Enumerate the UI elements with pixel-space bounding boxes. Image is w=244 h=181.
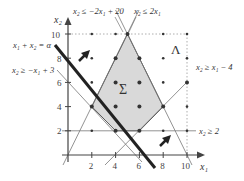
y-axis-arrow-icon (65, 17, 72, 25)
y-tick-label: 10 (51, 30, 61, 40)
y-tick-label: 8 (57, 54, 62, 64)
constraint-label-c1: x₂ ≤ −2x₁ + 20 (72, 6, 125, 16)
y-tick-label: 4 (57, 102, 62, 112)
leader-line (115, 17, 123, 32)
constraint-label-c2: x₂ ≤ 2x₁ (133, 6, 161, 16)
objective-label: x₁ + x₂ = α (12, 40, 51, 50)
lp-diagram: 2 4 6 8 10 2 4 6 8 10 x₁ x₂ Σ Λ x₂ ≤ −2x… (0, 0, 244, 181)
lattice-label: Λ (171, 42, 181, 57)
x-axis-arrow-icon (197, 152, 205, 159)
feasible-region (92, 34, 163, 131)
x-tick-label: 2 (89, 161, 94, 171)
feasible-region-label: Σ (119, 82, 127, 97)
x-tick-label: 8 (160, 161, 165, 171)
x-axis-label: x₁ (199, 161, 208, 172)
constraint-label-c3: x₂ ≥ x₁ − 4 (195, 62, 233, 72)
x-tick-label: 4 (113, 161, 118, 171)
y-axis-label: x₂ (53, 14, 62, 25)
x-tick-label: 6 (136, 161, 141, 171)
direction-arrow-icon (79, 50, 90, 61)
y-tick-label: 6 (57, 78, 62, 88)
x-tick-label: 10 (181, 161, 191, 171)
y-tick-label: 2 (57, 126, 62, 136)
constraint-label-c5: x₂ ≥ 2 (198, 126, 220, 136)
constraint-label-c4: x₂ ≥ −x₁ + 3 (11, 65, 54, 75)
leader-line (129, 17, 136, 32)
direction-arrow-icon (160, 135, 171, 146)
